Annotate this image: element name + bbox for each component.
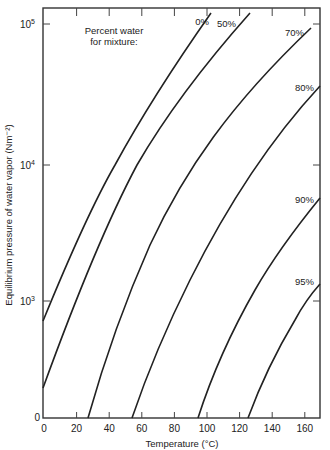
x-ticks-bottom xyxy=(77,412,305,418)
curve-label-0: 0% xyxy=(195,16,209,27)
curve-label-50: 50% xyxy=(217,18,237,29)
curve-label-90: 90% xyxy=(295,194,315,205)
y-ticks xyxy=(43,24,320,301)
curve-95-percent xyxy=(248,284,320,418)
x-tick-label: 140 xyxy=(264,423,281,434)
y-tick-label-1e3: 103 xyxy=(20,295,35,307)
annotation-line2: for mixture: xyxy=(90,36,138,47)
x-tick-label: 20 xyxy=(71,423,83,434)
y-tick-label-1e4: 104 xyxy=(20,159,35,171)
y-tick-labels: 105 104 103 0 xyxy=(20,18,40,423)
y-tick-label-zero: 0 xyxy=(34,412,40,423)
curve-50-percent xyxy=(43,13,250,388)
plot-frame xyxy=(43,8,320,418)
y-tick-label-1e5: 105 xyxy=(20,18,35,30)
curves xyxy=(43,13,320,418)
x-tick-label: 80 xyxy=(169,423,181,434)
mixture-annotation: Percent water for mixture: xyxy=(85,25,144,47)
x-tick-label: 60 xyxy=(136,423,148,434)
x-axis-title: Temperature (°C) xyxy=(146,438,219,449)
x-tick-label: 160 xyxy=(296,423,313,434)
curve-label-95: 95% xyxy=(295,276,315,287)
curve-70-percent xyxy=(88,28,311,418)
annotation-line1: Percent water xyxy=(85,25,144,36)
x-ticks-top xyxy=(77,8,305,16)
curve-80-percent xyxy=(132,86,320,418)
x-tick-label: 40 xyxy=(104,423,116,434)
curve-label-80: 80% xyxy=(295,82,315,93)
x-tick-labels: 0 20 40 60 80 100 120 140 160 xyxy=(41,423,313,434)
curve-label-70: 70% xyxy=(285,27,305,38)
x-tick-label: 120 xyxy=(231,423,248,434)
y-axis-title: Equilibrium pressure of water vapor (Nm⁻… xyxy=(3,124,14,305)
pressure-temperature-chart: 0 20 40 60 80 100 120 140 160 105 104 10… xyxy=(0,0,330,450)
curve-0-percent xyxy=(43,13,211,321)
x-tick-label: 100 xyxy=(199,423,216,434)
x-tick-label: 0 xyxy=(41,423,47,434)
